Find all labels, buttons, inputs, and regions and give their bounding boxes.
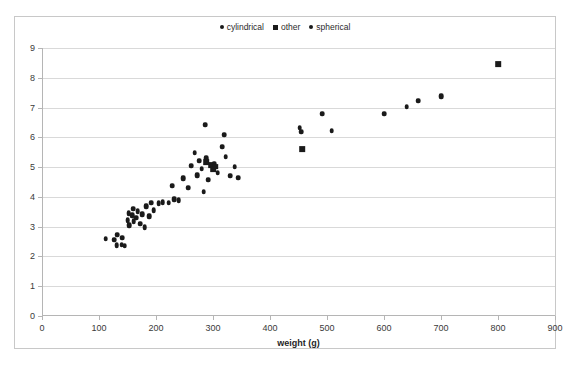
y-axis-tick-label: 6 xyxy=(30,132,35,142)
gridline xyxy=(42,78,555,79)
y-axis-tick-label: 7 xyxy=(30,103,35,113)
x-axis-tick xyxy=(42,316,43,320)
legend-label-cylindrical: cylindrical xyxy=(227,22,264,32)
data-point-cylindrical xyxy=(186,185,191,190)
data-point-cylindrical xyxy=(114,242,119,247)
data-point-cylindrical xyxy=(192,150,197,155)
y-axis-tick xyxy=(38,78,42,79)
gridline xyxy=(42,227,555,228)
plot-area: 0123456789 0100200300400500600700800900 … xyxy=(42,48,555,316)
legend-label-other: other xyxy=(281,22,300,32)
data-point-cylindrical xyxy=(195,173,200,178)
legend-item-cylindrical: cylindrical xyxy=(220,22,264,32)
x-axis-tick-label: 0 xyxy=(39,323,44,333)
data-point-cylindrical xyxy=(329,128,334,133)
x-axis-tick-label: 500 xyxy=(319,323,334,333)
data-point-cylindrical xyxy=(166,200,171,205)
y-axis-tick xyxy=(38,286,42,287)
data-point-other xyxy=(299,146,305,152)
data-point-other xyxy=(212,164,218,170)
gridline xyxy=(42,197,555,198)
data-point-cylindrical xyxy=(142,225,147,230)
legend-label-spherical: spherical xyxy=(316,22,350,32)
data-point-cylindrical xyxy=(151,208,156,213)
chart-frame: cylindrical other spherical 0123456789 0… xyxy=(14,16,556,349)
x-axis-tick xyxy=(156,316,157,320)
x-axis-tick-label: 100 xyxy=(91,323,106,333)
y-axis-tick-label: 4 xyxy=(30,192,35,202)
y-axis-tick-label: 2 xyxy=(30,251,35,261)
data-point-cylindrical xyxy=(181,176,186,181)
circle-marker-icon xyxy=(220,25,224,29)
data-point-cylindrical xyxy=(140,211,145,216)
data-point-cylindrical xyxy=(223,154,228,159)
circle-marker-icon xyxy=(309,25,313,29)
y-axis-tick xyxy=(38,137,42,138)
y-axis-tick xyxy=(38,197,42,198)
data-point-cylindrical xyxy=(405,104,410,109)
data-point-cylindrical xyxy=(220,144,225,149)
data-point-cylindrical xyxy=(416,98,421,103)
x-axis-tick-label: 600 xyxy=(376,323,391,333)
data-point-cylindrical xyxy=(203,122,208,127)
data-point-cylindrical xyxy=(144,204,149,209)
y-axis-tick-label: 3 xyxy=(30,222,35,232)
x-axis-tick-label: 200 xyxy=(148,323,163,333)
x-axis-tick xyxy=(441,316,442,320)
data-point-cylindrical xyxy=(104,236,109,241)
data-point-cylindrical xyxy=(134,215,139,220)
data-point-cylindrical xyxy=(120,235,125,240)
x-axis-tick-label: 300 xyxy=(205,323,220,333)
y-axis-tick xyxy=(38,167,42,168)
x-axis-tick xyxy=(498,316,499,320)
y-axis-tick xyxy=(38,227,42,228)
x-axis-tick-label: 900 xyxy=(547,323,562,333)
gridline xyxy=(42,286,555,287)
gridline xyxy=(42,48,555,49)
y-axis-tick-label: 5 xyxy=(30,162,35,172)
data-point-cylindrical xyxy=(236,175,241,180)
gridline xyxy=(42,137,555,138)
gridline xyxy=(42,256,555,257)
data-point-cylindrical xyxy=(177,198,182,203)
data-point-cylindrical xyxy=(170,183,175,188)
data-point-cylindrical xyxy=(232,164,237,169)
data-point-cylindrical xyxy=(299,129,304,134)
data-point-cylindrical xyxy=(149,200,154,205)
y-axis-tick xyxy=(38,108,42,109)
y-axis-tick xyxy=(38,48,42,49)
data-point-cylindrical xyxy=(202,189,207,194)
x-axis-tick xyxy=(213,316,214,320)
data-point-cylindrical xyxy=(115,232,120,237)
data-point-cylindrical xyxy=(382,111,387,116)
data-point-cylindrical xyxy=(439,94,444,99)
data-point-cylindrical xyxy=(161,200,166,205)
x-axis-tick-label: 400 xyxy=(262,323,277,333)
x-axis-tick xyxy=(99,316,100,320)
x-axis-tick xyxy=(327,316,328,320)
data-point-cylindrical xyxy=(222,132,227,137)
x-axis-line xyxy=(42,315,555,316)
y-axis-tick xyxy=(38,256,42,257)
data-point-cylindrical xyxy=(147,214,152,219)
data-point-cylindrical xyxy=(122,243,127,248)
chart-legend: cylindrical other spherical xyxy=(15,22,555,32)
data-point-cylindrical xyxy=(320,111,325,116)
square-marker-icon xyxy=(273,25,278,30)
data-point-cylindrical xyxy=(215,170,220,175)
data-point-cylindrical xyxy=(189,163,194,168)
gridline xyxy=(42,167,555,168)
x-axis-tick-label: 700 xyxy=(433,323,448,333)
y-axis-tick-label: 8 xyxy=(30,73,35,83)
legend-item-other: other xyxy=(273,22,300,32)
x-axis-title: weight (g) xyxy=(277,338,320,348)
y-axis-tick-label: 9 xyxy=(30,43,35,53)
data-point-cylindrical xyxy=(206,177,211,182)
data-point-cylindrical xyxy=(197,158,202,163)
x-axis-tick xyxy=(384,316,385,320)
y-axis-tick-label: 0 xyxy=(30,311,35,321)
data-point-cylindrical xyxy=(199,166,204,171)
x-axis-tick-label: 800 xyxy=(490,323,505,333)
legend-item-spherical: spherical xyxy=(309,22,350,32)
x-axis-tick xyxy=(555,316,556,320)
